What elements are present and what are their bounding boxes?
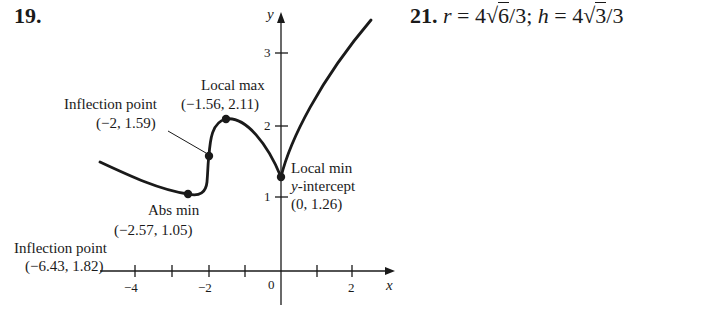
local-min-title: Local min bbox=[291, 160, 352, 177]
local-min-subtitle: y-intercept bbox=[291, 178, 355, 195]
sqrt-icon: √ bbox=[583, 3, 595, 28]
sqrt-icon: √ bbox=[486, 3, 498, 28]
abs-min-point bbox=[184, 190, 192, 198]
inflection-2-coords: (−6.43, 1.82) bbox=[25, 258, 103, 275]
problem-number-21: 21. bbox=[410, 3, 438, 28]
local-min-coords: (0, 1.26) bbox=[291, 196, 342, 213]
x-axis-label: x bbox=[386, 277, 393, 294]
y-axis-arrow-icon bbox=[277, 12, 285, 23]
x-tick-label-neg2: −2 bbox=[198, 280, 212, 296]
y-intercept-rest: -intercept bbox=[298, 178, 355, 194]
x-tick-label-2: 2 bbox=[348, 280, 355, 296]
local-max-point bbox=[222, 115, 230, 123]
problem-number-19: 19. bbox=[14, 3, 42, 29]
h-equals: = 4 bbox=[549, 3, 583, 28]
x-tick-label-0: 0 bbox=[268, 277, 275, 293]
y-tick-label-2: 2 bbox=[264, 118, 271, 134]
local-max-coords: (−1.56, 2.11) bbox=[181, 96, 259, 113]
problem-21-answer: 21. r = 4√6/3; h = 4√3/3 bbox=[410, 3, 623, 29]
x-axis-arrow-icon bbox=[385, 267, 395, 275]
x-tick-label-neg4: −4 bbox=[124, 280, 138, 296]
y-tick-label-3: 3 bbox=[264, 45, 271, 61]
y-axis-label: y bbox=[267, 6, 274, 23]
inflection-leader-line bbox=[168, 131, 206, 153]
local-max-title: Local max bbox=[201, 77, 265, 94]
inflection-1-title: Inflection point bbox=[64, 96, 157, 113]
y-tick-label-1: 1 bbox=[264, 189, 271, 205]
abs-min-title: Abs min bbox=[148, 202, 199, 219]
y-intercept-italic-y: y bbox=[291, 178, 298, 194]
inflection-2-title: Inflection point bbox=[14, 240, 107, 257]
inflection-point bbox=[205, 152, 213, 160]
h-radicand: 3 bbox=[595, 2, 606, 28]
graph bbox=[0, 0, 701, 312]
h-tail: /3 bbox=[606, 3, 623, 28]
r-radicand: 6 bbox=[498, 2, 509, 28]
h-variable: h bbox=[538, 3, 549, 28]
r-tail: /3; bbox=[509, 3, 538, 28]
r-variable: r bbox=[443, 3, 452, 28]
r-equals: = 4 bbox=[452, 3, 486, 28]
inflection-1-coords: (−2, 1.59) bbox=[96, 115, 156, 132]
local-min-point bbox=[277, 173, 285, 181]
abs-min-coords: (−2.57, 1.05) bbox=[114, 222, 192, 239]
